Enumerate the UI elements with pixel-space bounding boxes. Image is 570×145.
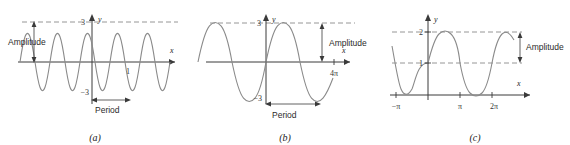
- panel-b-caption: (b): [190, 132, 380, 143]
- y-tick-label-3: 3: [81, 18, 85, 27]
- y-axis-arrow: [425, 14, 431, 21]
- y-tick-label-neg3: −3: [80, 88, 89, 97]
- panel-a: Amplitude Period 3 −3 1 x y (a): [0, 0, 190, 145]
- period-label: Period: [272, 110, 297, 120]
- panel-c-plot: Amplitude 2 1 −π π 2π x y: [380, 0, 570, 145]
- x-tick-label-neg-pi: −π: [392, 102, 401, 111]
- y-axis-name: y: [271, 15, 276, 24]
- period-label: Period: [95, 105, 120, 115]
- panel-c-caption: (c): [380, 132, 570, 143]
- y-tick-label-neg3: −3: [253, 94, 262, 103]
- x-axis-arrow: [524, 92, 530, 98]
- x-axis-name: x: [169, 46, 174, 55]
- panel-a-caption: (a): [0, 132, 190, 143]
- y-tick-label-3: 3: [257, 19, 261, 28]
- amplitude-arrow-head-top: [518, 32, 523, 38]
- x-axis-arrow: [344, 59, 350, 65]
- y-axis-name: y: [433, 15, 438, 24]
- x-axis-name: x: [516, 79, 521, 88]
- sine-shift-curve: [392, 31, 514, 96]
- x-tick-label-2pi: 2π: [490, 102, 498, 111]
- y-axis-name: y: [97, 15, 102, 24]
- amplitude-label: Amplitude: [8, 37, 46, 47]
- x-tick-label-1: 1: [126, 67, 130, 76]
- panel-b-plot: Amplitude Period 3 −3 4π x y: [190, 0, 380, 145]
- x-tick-label-pi: π: [458, 102, 462, 111]
- amplitude-label: Amplitude: [526, 42, 564, 52]
- y-axis-arrow: [89, 14, 95, 21]
- panel-b: Amplitude Period 3 −3 4π x y (b): [190, 0, 380, 145]
- amplitude-arrow-head-top: [320, 23, 325, 29]
- amplitude-label: Amplitude: [329, 38, 367, 48]
- y-axis-arrow: [263, 14, 269, 21]
- panel-c: Amplitude 2 1 −π π 2π x y (c): [380, 0, 570, 145]
- y-tick-label-2: 2: [419, 28, 423, 37]
- trig-graphs-figure: Amplitude Period 3 −3 1 x y (a): [0, 0, 570, 145]
- panel-a-plot: Amplitude Period 3 −3 1 x y: [0, 0, 190, 145]
- period-arrow-head-right: [125, 98, 131, 103]
- y-tick-label-1: 1: [419, 59, 423, 68]
- x-tick-label-4pi: 4π: [330, 69, 338, 78]
- amplitude-arrow-head-bottom: [320, 56, 325, 62]
- x-axis-name: x: [341, 46, 346, 55]
- amplitude-arrow-head-bottom: [518, 57, 523, 63]
- period-arrow-head-right: [315, 102, 321, 107]
